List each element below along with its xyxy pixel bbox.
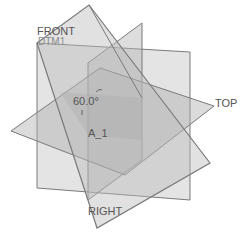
top-plane-label[interactable]: TOP: [215, 98, 237, 109]
dtm1-plane-label[interactable]: DTM1: [38, 37, 65, 47]
axis-label[interactable]: A_1: [88, 128, 108, 139]
angle-dimension-value[interactable]: 60.0°: [73, 96, 99, 107]
model-viewport[interactable]: FRONT DTM1 TOP RIGHT A_1 60.0°: [0, 0, 242, 238]
right-plane-label[interactable]: RIGHT: [88, 206, 122, 217]
